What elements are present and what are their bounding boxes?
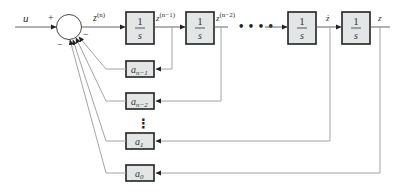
horizontal-ellipsis: • • • • [238,21,274,32]
gain-a-n-2: an−2 [126,93,154,109]
zn2-label: z(n−2) [215,11,236,23]
vertical-ellipsis: ⋮ [137,116,150,131]
svg-text:1: 1 [299,15,305,27]
zn1-label: z(n−1) [155,11,176,23]
summing-junction [57,15,82,40]
zn-label: z(n) [92,11,106,23]
svg-text:1: 1 [137,15,143,27]
input-signal: u + [15,12,56,27]
plus-sign: + [48,12,54,23]
svg-text:1: 1 [197,15,203,27]
svg-text:s: s [198,30,202,41]
z-label: z [377,13,382,23]
minus-sign-1: − [83,29,89,40]
svg-text:s: s [138,30,142,41]
svg-text:s: s [354,30,358,41]
minus-sign-2: − [57,39,63,50]
integrator-3: 1 s [288,12,316,44]
integrator-4: 1 s [342,12,370,44]
integrator-2: 1 s [186,12,214,44]
svg-text:s: s [300,30,304,41]
zdot-label: ż [325,13,330,23]
gain-a-0: a0 [126,165,154,181]
gain-a-n-1: an−1 [126,61,154,77]
integrator-1: 1 s [126,12,154,44]
svg-text:1: 1 [353,15,359,27]
gain-a-1: a1 [126,133,154,149]
input-label: u [23,12,29,24]
block-diagram: u + − − z(n) 1 s z(n−1) 1 s z(n−2) • • •… [0,0,398,193]
